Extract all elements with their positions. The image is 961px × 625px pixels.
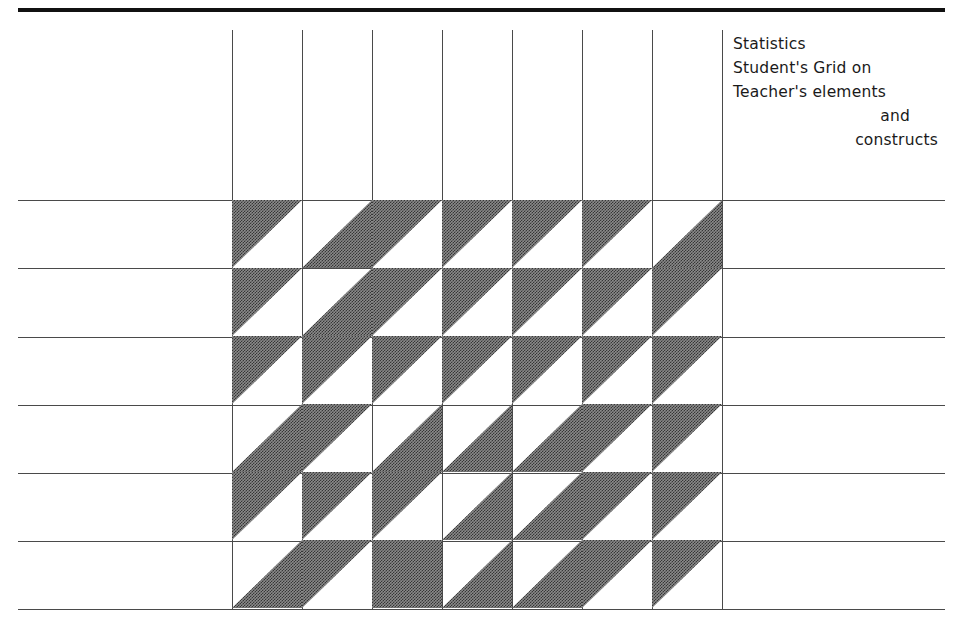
grid-cell-r6-c4[interactable] [442, 540, 512, 608]
grid-row [232, 404, 722, 472]
grid-cell-r1-c5[interactable] [512, 200, 582, 268]
caption-line-4: and [733, 104, 948, 128]
cell-shading-lower-right [232, 540, 302, 608]
caption-line-2: Student's Grid on [733, 56, 948, 80]
grid-row [232, 200, 722, 268]
grid-cell-r5-c5[interactable] [512, 472, 582, 540]
grid-cell-r2-c2[interactable] [302, 268, 372, 336]
grid-cell-r5-c7[interactable] [652, 472, 722, 540]
grid-cell-r3-c4[interactable] [442, 336, 512, 404]
grid-cell-r3-c6[interactable] [582, 336, 652, 404]
grid-cell-r2-c7[interactable] [652, 268, 722, 336]
cell-shading-upper-left [302, 336, 372, 404]
grid-cell-r5-c1[interactable] [232, 472, 302, 540]
cell-shading-lower-right [442, 540, 512, 608]
cell-shading-upper-left [442, 336, 512, 404]
grid-cell-r4-c3[interactable] [372, 404, 442, 472]
cell-shading-lower-right [302, 268, 372, 336]
cell-shading-lower-right [512, 472, 582, 540]
page-canvas: StatisticsStudent's Grid onTeacher's ele… [0, 0, 961, 625]
grid-cell-r6-c3[interactable] [372, 540, 442, 608]
grid-cell-r2-c6[interactable] [582, 268, 652, 336]
repertory-grid-matrix [232, 200, 722, 608]
grid-cell-r1-c6[interactable] [582, 200, 652, 268]
cell-shading-upper-left [302, 540, 372, 608]
grid-cell-r6-c1[interactable] [232, 540, 302, 608]
grid-cell-r2-c4[interactable] [442, 268, 512, 336]
grid-cell-r5-c6[interactable] [582, 472, 652, 540]
cell-shading-upper-left [512, 336, 582, 404]
grid-cell-r3-c2[interactable] [302, 336, 372, 404]
grid-cell-r4-c1[interactable] [232, 404, 302, 472]
cell-shading-upper-left [582, 200, 652, 268]
grid-cell-r4-c7[interactable] [652, 404, 722, 472]
grid-cell-r4-c5[interactable] [512, 404, 582, 472]
cell-shading-upper-left [372, 336, 442, 404]
cell-shading-upper-left [652, 404, 722, 472]
grid-cell-r1-c1[interactable] [232, 200, 302, 268]
grid-cell-r2-c5[interactable] [512, 268, 582, 336]
cell-shading-lower-right [442, 404, 512, 472]
grid-cell-r1-c2[interactable] [302, 200, 372, 268]
grid-row [232, 472, 722, 540]
top-border-rule [18, 8, 945, 12]
grid-cell-r2-c1[interactable] [232, 268, 302, 336]
cell-shading-upper-left [582, 472, 652, 540]
grid-cell-r6-c6[interactable] [582, 540, 652, 608]
vertical-rule-8 [722, 30, 723, 609]
cell-shading-upper-left [582, 404, 652, 472]
grid-cell-r6-c2[interactable] [302, 540, 372, 608]
grid-cell-r6-c7[interactable] [652, 540, 722, 608]
cell-shading-upper-left [442, 268, 512, 336]
grid-cell-r4-c6[interactable] [582, 404, 652, 472]
grid-cell-r3-c7[interactable] [652, 336, 722, 404]
grid-row [232, 268, 722, 336]
cell-shading-upper-left [302, 472, 372, 540]
grid-cell-r4-c4[interactable] [442, 404, 512, 472]
cell-shading-lower-right [652, 200, 722, 268]
grid-cell-r1-c4[interactable] [442, 200, 512, 268]
grid-cell-r6-c5[interactable] [512, 540, 582, 608]
cell-shading-upper-left [652, 472, 722, 540]
grid-row [232, 540, 722, 608]
grid-cell-r2-c3[interactable] [372, 268, 442, 336]
grid-cell-r3-c1[interactable] [232, 336, 302, 404]
cell-shading-upper-left [652, 540, 722, 608]
grid-cell-r1-c7[interactable] [652, 200, 722, 268]
grid-cell-r3-c3[interactable] [372, 336, 442, 404]
caption-line-5: constructs [733, 128, 948, 152]
grid-cell-r5-c4[interactable] [442, 472, 512, 540]
cell-shading-full [372, 540, 442, 608]
grid-cell-r4-c2[interactable] [302, 404, 372, 472]
grid-cell-r1-c3[interactable] [372, 200, 442, 268]
cell-shading-upper-left [652, 336, 722, 404]
caption-line-1: Statistics [733, 32, 948, 56]
cell-shading-upper-left [232, 200, 302, 268]
cell-shading-lower-right [302, 200, 372, 268]
cell-shading-upper-left [372, 472, 442, 540]
cell-shading-upper-left [582, 336, 652, 404]
cell-shading-lower-right [512, 404, 582, 472]
cell-shading-upper-left [232, 268, 302, 336]
cell-shading-upper-left [232, 472, 302, 540]
cell-shading-upper-left [232, 336, 302, 404]
grid-row [232, 336, 722, 404]
cell-shading-upper-left [652, 268, 722, 336]
cell-shading-upper-left [372, 268, 442, 336]
cell-shading-lower-right [372, 404, 442, 472]
cell-shading-upper-left [442, 200, 512, 268]
handwritten-caption: StatisticsStudent's Grid onTeacher's ele… [733, 32, 948, 152]
cell-shading-upper-left [582, 540, 652, 608]
caption-line-3: Teacher's elements [733, 80, 948, 104]
grid-cell-r5-c3[interactable] [372, 472, 442, 540]
cell-shading-lower-right [512, 540, 582, 608]
horizontal-rule-7 [18, 609, 945, 610]
grid-cell-r5-c2[interactable] [302, 472, 372, 540]
cell-shading-lower-right [232, 404, 302, 472]
cell-shading-upper-left [512, 268, 582, 336]
cell-shading-upper-left [512, 200, 582, 268]
grid-cell-r3-c5[interactable] [512, 336, 582, 404]
cell-shading-upper-left [302, 404, 372, 472]
cell-shading-upper-left [582, 268, 652, 336]
cell-shading-upper-left [372, 200, 442, 268]
